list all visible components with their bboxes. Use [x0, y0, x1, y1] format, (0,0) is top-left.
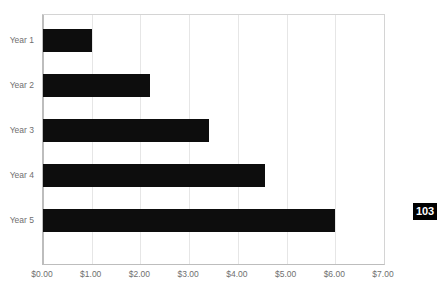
x-axis-tick-label: $0.00: [31, 269, 52, 280]
bar-year-2: [43, 74, 150, 97]
bar-year-1: [43, 29, 92, 52]
bar-year-4: [43, 164, 265, 187]
x-axis-tick-label: $7.00: [372, 269, 393, 280]
bars-layer: [43, 15, 384, 264]
x-axis-tick-label: $3.00: [178, 269, 199, 280]
x-axis-tick-label: $2.00: [129, 269, 150, 280]
x-axis-tick-label: $1.00: [80, 269, 101, 280]
y-axis-tick-label: Year 4: [0, 170, 34, 180]
y-axis-tick-label: Year 3: [0, 125, 34, 135]
y-axis-labels: Year 1 Year 2 Year 3 Year 4 Year 5: [0, 14, 38, 265]
bar-year-3: [43, 119, 209, 142]
y-axis-tick-label: Year 2: [0, 80, 34, 90]
x-axis-tick-label: $5.00: [275, 269, 296, 280]
y-axis-tick-label: Year 1: [0, 35, 34, 45]
bar-chart-figure: Year 1 Year 2 Year 3 Year 4 Year 5 $0.00…: [0, 0, 440, 297]
bar-year-5: [43, 209, 335, 232]
x-axis-tick-label: $6.00: [324, 269, 345, 280]
page-number-badge: 103: [413, 203, 437, 220]
y-axis-tick-label: Year 5: [0, 215, 34, 225]
x-axis-tick-label: $4.00: [226, 269, 247, 280]
x-axis-labels: $0.00 $1.00 $2.00 $3.00 $4.00 $5.00 $6.0…: [42, 269, 385, 283]
plot-area: [42, 14, 385, 265]
